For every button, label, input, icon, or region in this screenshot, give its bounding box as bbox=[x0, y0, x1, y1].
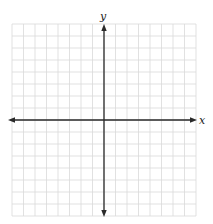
y-axis-top-arrow-icon bbox=[101, 24, 106, 31]
coordinate-plane: y x bbox=[0, 0, 213, 224]
x-axis-label: x bbox=[199, 114, 206, 127]
y-axis-label: y bbox=[99, 10, 107, 23]
x-axis-left-arrow-icon bbox=[8, 117, 15, 122]
